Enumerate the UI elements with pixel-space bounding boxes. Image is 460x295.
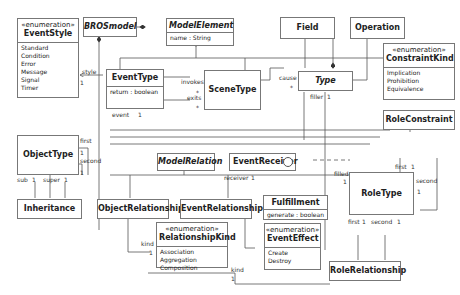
class-model-relation[interactable]: ModelRelation [157,153,215,171]
multiplicity-cause: * [290,84,293,91]
class-bros-model[interactable]: BROSmodel [83,17,137,37]
class-name: ConstraintKind [384,54,454,67]
enum-literals: Association Aggregation Composition [157,246,227,273]
role-label-first-objecttype: first [80,137,92,144]
attribute: generate : boolean [267,211,324,219]
class-name: EventStyle [18,29,78,42]
literal: Error [21,60,75,68]
multiplicity-first-roleconstraint: 1 [411,163,415,170]
class-attributes: name : String [167,32,233,43]
class-fulfillment[interactable]: Fulfillment generate : boolean [263,195,328,220]
class-field[interactable]: Field [280,17,335,39]
multiplicity-style: 1 [80,79,84,86]
class-scene-type[interactable]: SceneType [204,70,261,110]
class-name: RelationshipKind [157,233,227,246]
role-label-super: super [43,176,60,183]
literal: Aggregation [160,256,224,264]
class-object-type[interactable]: ObjectType [17,135,79,175]
stereotype-label: «enumeration» [265,224,320,234]
role-label-second-rolerelationship: second [371,218,392,225]
class-name: RoleType [350,189,413,199]
class-model-element[interactable]: ModelElement name : String [166,18,234,46]
multiplicity-kind-objectrelationship: 1 [149,249,153,256]
class-name: Operation [351,23,404,33]
multiplicity-kind-rolerelationship: 1 [231,275,235,282]
class-name: RoleRelationship [330,266,400,276]
literal: Prohibition [387,77,451,85]
role-label-event: event [112,111,129,118]
class-event-relationship[interactable]: EventRelationship [180,199,252,219]
class-role-constraint[interactable]: RoleConstraint [383,110,455,130]
class-name: BROSmodel [84,22,136,32]
attribute: return : boolean [110,88,160,96]
class-name: ObjectRelationship [98,204,168,214]
class-relationship-kind[interactable]: «enumeration» RelationshipKind Associati… [156,222,228,268]
class-name: Inheritance [18,204,81,214]
role-label-receiver: receiver [224,174,248,181]
role-label-filler: filler [310,93,323,100]
class-event-style[interactable]: «enumeration» EventStyle Standard Condit… [17,18,79,98]
literal: Association [160,248,224,256]
literal: Equivalence [387,85,451,93]
literal: Timer [21,84,75,92]
enum-literals: Create Destroy [265,247,320,266]
class-attributes: return : boolean [107,86,163,127]
role-label-filled: filled [334,170,349,177]
multiplicity-sub: 1 [32,176,36,183]
multiplicity-super: 1 [64,176,68,183]
class-name: ObjectType [18,150,78,160]
multiplicity-second-objecttype: 1 [80,169,84,176]
multiplicity-receiver: 1 [251,174,255,181]
role-label-first-rolerelationship: first [348,218,360,225]
stereotype-label: «enumeration» [384,44,454,54]
multiplicity-second-roleconstraint: 1 [417,188,421,195]
role-label-cause: cause [279,74,297,81]
class-name: EventType [107,70,163,86]
attribute: name : String [170,34,230,42]
class-name: SceneType [205,85,260,95]
literal: Implication [387,69,451,77]
class-name: ModelElement [167,19,233,32]
class-attributes: generate : boolean [264,209,327,220]
role-label-first-roleconstraint: first [395,163,407,170]
class-inheritance[interactable]: Inheritance [17,199,82,219]
class-name: Field [281,23,334,33]
class-name: Type [299,76,352,86]
role-label-sub: sub [17,176,28,183]
literal: Create [268,249,317,257]
class-event-effect[interactable]: «enumeration» EventEffect Create Destroy [264,223,321,270]
literal: Standard [21,44,75,52]
stereotype-label: «enumeration» [18,19,78,29]
role-label-invokes: invokes [181,78,204,85]
class-role-type[interactable]: RoleType [349,172,414,215]
literal: Condition [21,52,75,60]
multiplicity-event: 1 [138,111,142,118]
literal: Signal [21,76,75,84]
role-label-exits: exits [187,94,201,101]
multiplicity-exits: * [196,104,199,111]
multiplicity-second-rolerelationship: 1 [397,218,401,225]
multiplicity-filler: 1 [327,93,331,100]
class-name: EventEffect [265,234,320,247]
class-name: Fulfillment [264,196,327,209]
literal: Composition [160,264,224,272]
enum-literals: Implication Prohibition Equivalence [384,67,454,94]
multiplicity-first-objecttype: 1 [80,149,84,156]
literal: Message [21,68,75,76]
role-label-second-objecttype: second [80,157,101,164]
class-name: EventRelationship [181,204,251,214]
literal: Destroy [268,257,317,265]
class-constraint-kind[interactable]: «enumeration» ConstraintKind Implication… [383,43,455,100]
role-label-kind-objectrelationship: kind [141,240,154,247]
class-name: RoleConstraint [384,115,454,125]
role-label-kind-rolerelationship: kind [231,266,244,273]
class-name: ModelRelation [158,157,214,167]
class-operation[interactable]: Operation [350,17,405,39]
class-type[interactable]: Type [298,71,353,91]
role-label-second-roleconstraint: second [416,177,437,184]
stereotype-label: «enumeration» [157,223,227,233]
class-object-relationship[interactable]: ObjectRelationship [97,199,169,219]
class-event-type[interactable]: EventType return : boolean [106,69,164,109]
class-role-relationship[interactable]: RoleRelationship [329,261,401,281]
interface-circle-icon [283,157,293,167]
